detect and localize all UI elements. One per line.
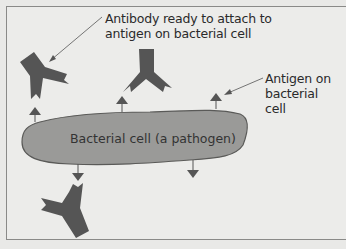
antibody-callout-arrow <box>49 17 102 62</box>
bacterial-cell-label: Bacterial cell (a pathogen) <box>70 131 236 146</box>
antibody-callout-label: Antibody ready to attach to antigen on b… <box>105 11 272 41</box>
antigen-top-2 <box>116 96 128 112</box>
antigen-callout-line-2: bacterial cell <box>265 86 334 116</box>
antibody-bottom <box>41 183 89 238</box>
antibody-middle <box>123 49 172 92</box>
antigen-callout-label: Antigen on bacterial cell <box>265 71 334 116</box>
antigen-bottom-1 <box>72 164 84 181</box>
antigen-callout-arrow <box>224 78 263 95</box>
antibody-callout-line-2: antigen on bacterial cell <box>105 26 272 41</box>
antigen-callout-line-1: Antigen on <box>265 71 334 86</box>
antigen-top-3 <box>210 93 222 109</box>
antibody-left <box>20 52 69 99</box>
antigen-top-1 <box>29 107 41 122</box>
antibody-callout-line-1: Antibody ready to attach to <box>105 11 272 26</box>
antigen-bottom-2 <box>187 160 199 178</box>
